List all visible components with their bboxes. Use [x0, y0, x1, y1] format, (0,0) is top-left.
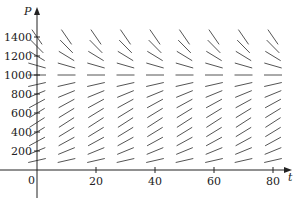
slope-segment	[177, 51, 192, 60]
slope-segment	[146, 83, 164, 87]
slope-segment	[118, 99, 134, 108]
slope-segment	[237, 40, 250, 53]
slope-segment	[236, 108, 251, 117]
slope-segment	[58, 63, 75, 68]
slope-segment	[206, 51, 221, 60]
slope-segment	[118, 137, 134, 146]
slope-segment	[265, 51, 280, 60]
x-tick-label: 60	[207, 175, 221, 188]
slope-segment	[147, 51, 162, 60]
y-tick-label: 400	[11, 126, 32, 139]
slope-segment	[87, 159, 105, 163]
slope-segment	[176, 83, 194, 87]
slope-segment	[59, 51, 74, 60]
slope-segment	[236, 137, 252, 146]
slope-segment	[265, 118, 280, 128]
slope-segment	[177, 118, 192, 128]
slope-segment	[235, 91, 252, 98]
slope-segment	[118, 108, 133, 117]
slope-segment	[205, 63, 222, 68]
slope-segment	[117, 63, 134, 68]
slope-segment	[118, 127, 133, 136]
slope-segment	[265, 137, 281, 146]
x-tick-label: 20	[89, 175, 103, 188]
slope-segment	[149, 40, 162, 53]
slope-segment	[264, 83, 282, 87]
y-axis-label: P	[23, 5, 32, 18]
slope-segment	[147, 148, 164, 155]
slope-segment	[206, 148, 223, 155]
y-tick-label: 1400	[4, 31, 32, 44]
slope-segment	[176, 159, 194, 163]
slope-segment	[147, 137, 163, 146]
slope-segment	[117, 159, 135, 163]
slope-segment	[264, 159, 282, 163]
y-tick-label: 800	[11, 88, 32, 101]
slope-segment	[58, 148, 75, 155]
slope-segment	[88, 99, 104, 108]
slope-segment	[58, 83, 76, 87]
slope-segment	[88, 127, 103, 136]
slope-segment	[265, 91, 282, 98]
slope-segment	[118, 51, 133, 60]
origin-label: 0	[28, 174, 35, 187]
slope-segments	[28, 30, 282, 163]
slope-segment	[59, 108, 74, 117]
slope-segment	[206, 137, 222, 146]
slope-segment	[206, 99, 222, 108]
slope-segment	[146, 159, 164, 163]
slope-segment	[235, 159, 253, 163]
slope-segment	[58, 159, 76, 163]
slope-segment	[265, 127, 280, 136]
slope-segment	[88, 108, 103, 117]
slope-segment	[265, 108, 280, 117]
slope-segment	[235, 148, 252, 155]
slope-segment	[87, 83, 105, 87]
slope-segment	[265, 148, 282, 155]
slope-segment	[118, 118, 133, 128]
slope-segment	[177, 137, 193, 146]
slope-segment	[206, 127, 221, 136]
slope-segment	[176, 148, 193, 155]
slope-segment	[235, 83, 253, 87]
slope-segment	[236, 99, 252, 108]
slope-segment	[88, 118, 103, 128]
slope-segment	[58, 91, 75, 98]
slope-segment	[236, 51, 251, 60]
slope-segment	[117, 148, 134, 155]
slope-segment	[178, 40, 191, 53]
slope-segment	[177, 127, 192, 136]
x-tick-label: 80	[266, 175, 280, 188]
slope-segment	[59, 99, 75, 108]
slope-segment	[177, 108, 192, 117]
slope-segment	[88, 51, 103, 60]
slope-segment	[206, 108, 221, 117]
slope-segment	[267, 40, 280, 53]
slope-segment	[147, 91, 164, 98]
slope-segment	[119, 40, 132, 53]
slope-segment	[60, 40, 73, 53]
slope-segment	[147, 127, 162, 136]
slope-field-chart: 200400600800100012001400 20406080 P t 0	[0, 0, 297, 200]
slope-segment	[90, 40, 103, 53]
slope-segment	[59, 137, 75, 146]
slope-segment	[208, 40, 221, 53]
y-tick-label: 200	[11, 145, 32, 158]
slope-segment	[205, 159, 223, 163]
slope-segment	[147, 108, 162, 117]
slope-segment	[147, 99, 163, 108]
slope-segment	[117, 83, 135, 87]
slope-segment	[206, 118, 221, 128]
slope-segment	[88, 137, 104, 146]
slope-segment	[59, 127, 74, 136]
slope-segment	[206, 91, 223, 98]
y-axis-arrow-icon	[34, 7, 40, 15]
slope-segment	[88, 91, 105, 98]
slope-segment	[264, 63, 281, 68]
y-tick-label: 1000	[4, 69, 32, 82]
slope-segment	[59, 118, 74, 128]
slope-segment	[147, 118, 162, 128]
slope-segment	[146, 63, 163, 68]
slope-segment	[235, 63, 252, 68]
slope-segment	[87, 63, 104, 68]
